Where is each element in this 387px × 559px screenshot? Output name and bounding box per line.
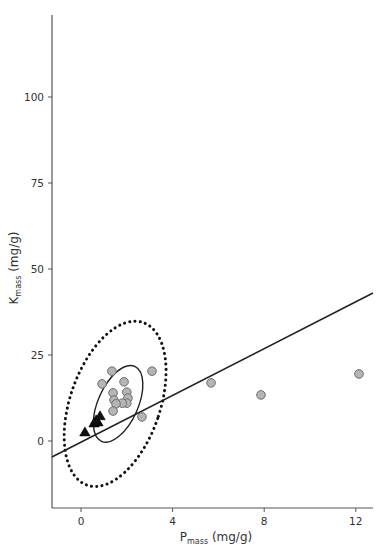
x-tick-label: 8 [261, 515, 268, 527]
data-point-circle [148, 367, 157, 376]
data-point-triangle [80, 427, 90, 436]
x-tick-label: 12 [349, 515, 362, 527]
y-tick-label: 0 [37, 435, 44, 447]
data-point-circle [257, 391, 266, 400]
data-points [80, 367, 364, 436]
y-tick-label: 25 [31, 349, 44, 361]
data-point-circle [138, 413, 147, 422]
x-tick-label: 4 [169, 515, 176, 527]
data-point-circle [98, 380, 107, 389]
y-tick-label: 50 [31, 263, 44, 275]
y-tick-label: 100 [24, 91, 44, 103]
scatter-chart: 025507510004812 Pmass (mg/g) Kmass (mg/g… [0, 0, 387, 559]
data-point-circle [120, 378, 129, 387]
y-tick-label: 75 [31, 177, 44, 189]
data-point-circle [355, 370, 364, 379]
y-axis-label: Kmass (mg/g) [7, 231, 23, 304]
x-tick-label: 0 [78, 515, 85, 527]
data-point-circle [109, 407, 118, 416]
regression-line-path [52, 293, 373, 457]
data-point-circle [108, 367, 117, 376]
axes: 025507510004812 [24, 15, 373, 527]
data-point-circle [207, 379, 216, 388]
x-axis-label: Pmass (mg/g) [180, 530, 252, 546]
regression-line [52, 293, 373, 457]
